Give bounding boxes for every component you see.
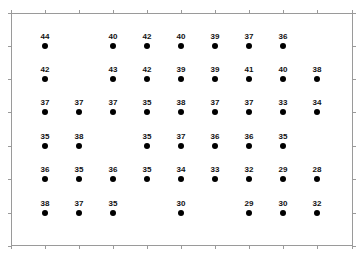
point-value-label: 35 xyxy=(101,199,125,208)
point-value-label: 36 xyxy=(237,132,261,141)
y-tick-mark xyxy=(352,13,356,14)
point-marker-icon xyxy=(212,176,218,182)
point-marker-icon xyxy=(246,109,252,115)
point-value-label: 32 xyxy=(305,199,329,208)
point-value-label: 42 xyxy=(135,32,159,41)
point-marker-icon xyxy=(76,109,82,115)
point-value-label: 37 xyxy=(237,98,261,107)
point-marker-icon xyxy=(246,143,252,149)
point-value-label: 37 xyxy=(237,32,261,41)
point-marker-icon xyxy=(110,210,116,216)
x-tick-mark xyxy=(283,245,284,249)
point-value-label: 29 xyxy=(237,199,261,208)
point-value-label: 29 xyxy=(271,165,295,174)
x-tick-mark xyxy=(317,245,318,249)
point-marker-icon xyxy=(178,76,184,82)
point-value-label: 39 xyxy=(203,32,227,41)
point-marker-icon xyxy=(76,176,82,182)
point-marker-icon xyxy=(280,143,286,149)
y-tick-mark xyxy=(352,79,356,80)
y-tick-mark xyxy=(352,112,356,113)
point-value-label: 37 xyxy=(101,98,125,107)
point-value-label: 39 xyxy=(203,65,227,74)
point-marker-icon xyxy=(178,210,184,216)
y-tick-mark xyxy=(352,146,356,147)
point-marker-icon xyxy=(42,43,48,49)
point-marker-icon xyxy=(144,76,150,82)
x-tick-mark xyxy=(215,245,216,249)
point-value-label: 41 xyxy=(237,65,261,74)
point-value-label: 40 xyxy=(169,32,193,41)
scatter-plot: 4440424039373642434239394140383737373538… xyxy=(0,0,363,259)
point-value-label: 37 xyxy=(67,98,91,107)
point-value-label: 42 xyxy=(135,65,159,74)
point-value-label: 38 xyxy=(33,199,57,208)
point-marker-icon xyxy=(314,76,320,82)
point-marker-icon xyxy=(280,176,286,182)
x-tick-mark xyxy=(249,10,250,14)
x-tick-mark xyxy=(147,245,148,249)
point-marker-icon xyxy=(212,109,218,115)
point-marker-icon xyxy=(110,176,116,182)
point-value-label: 35 xyxy=(135,132,159,141)
point-value-label: 35 xyxy=(33,132,57,141)
point-value-label: 32 xyxy=(237,165,261,174)
y-tick-mark xyxy=(8,179,12,180)
point-marker-icon xyxy=(280,43,286,49)
point-marker-icon xyxy=(212,43,218,49)
point-value-label: 33 xyxy=(271,98,295,107)
point-marker-icon xyxy=(144,109,150,115)
y-tick-mark xyxy=(8,112,12,113)
point-value-label: 30 xyxy=(271,199,295,208)
x-tick-mark xyxy=(283,10,284,14)
y-tick-mark xyxy=(8,79,12,80)
y-tick-mark xyxy=(8,146,12,147)
point-marker-icon xyxy=(212,143,218,149)
point-value-label: 37 xyxy=(169,132,193,141)
point-marker-icon xyxy=(246,43,252,49)
point-value-label: 34 xyxy=(169,165,193,174)
point-value-label: 38 xyxy=(169,98,193,107)
point-marker-icon xyxy=(212,76,218,82)
y-tick-mark xyxy=(8,46,12,47)
point-value-label: 35 xyxy=(67,165,91,174)
point-marker-icon xyxy=(144,176,150,182)
point-value-label: 35 xyxy=(135,98,159,107)
point-value-label: 40 xyxy=(271,65,295,74)
point-marker-icon xyxy=(110,43,116,49)
point-marker-icon xyxy=(280,210,286,216)
x-tick-mark xyxy=(181,10,182,14)
point-value-label: 42 xyxy=(33,65,57,74)
x-tick-mark xyxy=(79,245,80,249)
point-marker-icon xyxy=(42,109,48,115)
point-marker-icon xyxy=(110,76,116,82)
point-marker-icon xyxy=(280,76,286,82)
x-tick-mark xyxy=(45,10,46,14)
point-value-label: 34 xyxy=(305,98,329,107)
point-marker-icon xyxy=(178,43,184,49)
point-value-label: 37 xyxy=(33,98,57,107)
x-tick-mark xyxy=(45,245,46,249)
x-tick-mark xyxy=(147,10,148,14)
y-tick-mark xyxy=(8,246,12,247)
point-value-label: 35 xyxy=(135,165,159,174)
point-value-label: 43 xyxy=(101,65,125,74)
point-value-label: 38 xyxy=(67,132,91,141)
y-tick-mark xyxy=(352,213,356,214)
point-marker-icon xyxy=(110,109,116,115)
point-value-label: 38 xyxy=(305,65,329,74)
point-value-label: 35 xyxy=(271,132,295,141)
point-value-label: 36 xyxy=(203,132,227,141)
point-value-label: 30 xyxy=(169,199,193,208)
point-value-label: 37 xyxy=(67,199,91,208)
point-value-label: 36 xyxy=(271,32,295,41)
point-marker-icon xyxy=(314,109,320,115)
point-marker-icon xyxy=(246,76,252,82)
point-marker-icon xyxy=(42,76,48,82)
point-marker-icon xyxy=(280,109,286,115)
point-value-label: 37 xyxy=(203,98,227,107)
point-marker-icon xyxy=(42,176,48,182)
x-tick-mark xyxy=(215,10,216,14)
point-value-label: 40 xyxy=(101,32,125,41)
x-tick-mark xyxy=(249,245,250,249)
